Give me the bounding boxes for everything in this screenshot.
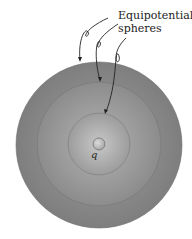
label-line-2: spheres	[118, 22, 192, 35]
equipotential-diagram	[0, 0, 192, 239]
label-line-1: Equipotential	[118, 9, 192, 22]
equipotential-label: Equipotential spheres	[118, 9, 192, 35]
charge-label: q	[91, 148, 97, 161]
